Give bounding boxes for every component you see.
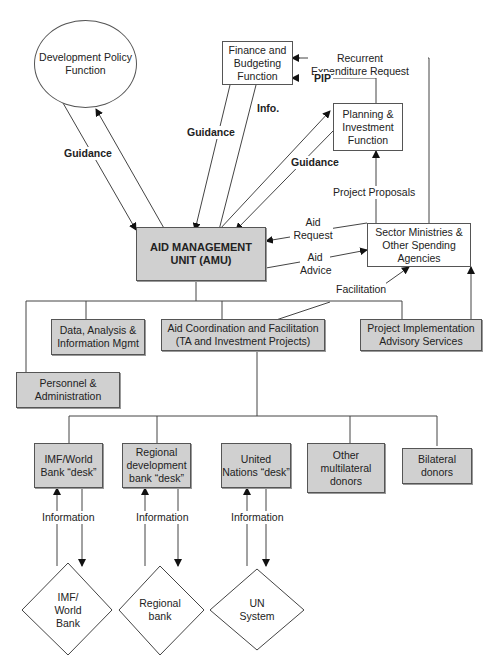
regional-bank-desk-node: Regional development bank “desk” xyxy=(122,443,191,488)
aid-coordination-node: Aid Coordination and Facilitation (TA an… xyxy=(161,319,325,351)
information-label-regional: Information xyxy=(136,511,189,524)
facilitation-label: Facilitation xyxy=(336,283,386,296)
regional-bank-diamond: Regional bank xyxy=(135,597,185,623)
sector-ministries-node: Sector Ministries & Other Spending Agenc… xyxy=(367,223,471,267)
imf-world-bank-desk-node: IMF/World Bank “desk” xyxy=(34,443,103,488)
data-analysis-node: Data, Analysis & Information Mgmt xyxy=(51,319,145,355)
aid-request-label: Aid Request xyxy=(293,216,333,242)
information-label-un: Information xyxy=(231,511,284,524)
project-implementation-node: Project Implementation Advisory Services xyxy=(360,319,482,351)
aid-advice-label: Aid Advice xyxy=(300,251,330,277)
finance-budgeting-function-node: Finance and Budgeting Function xyxy=(222,41,293,85)
imf-world-bank-diamond: IMF/ World Bank xyxy=(48,591,88,630)
pip-label: PIP xyxy=(314,72,331,85)
aid-management-unit-node: AID MANAGEMENT UNIT (AMU) xyxy=(136,227,266,281)
personnel-administration-node: Personnel & Administration xyxy=(16,372,120,408)
information-label-imf: Information xyxy=(42,511,95,524)
bilateral-donors-node: Bilateral donors xyxy=(402,448,472,484)
un-desk-node: United Nations “desk” xyxy=(221,443,291,488)
info-label: Info. xyxy=(257,102,279,115)
other-multilateral-node: Other multilateral donors xyxy=(307,443,385,493)
guidance-label-finance: Guidance xyxy=(187,126,235,139)
project-proposals-label: Project Proposals xyxy=(333,186,415,199)
guidance-label-dev-policy: Guidance xyxy=(64,147,112,160)
development-policy-function-node: Development Policy Function xyxy=(34,20,137,108)
un-system-diamond: UN System xyxy=(232,597,282,623)
guidance-label-planning: Guidance xyxy=(291,156,339,169)
planning-investment-function-node: Planning & Investment Function xyxy=(333,103,403,151)
